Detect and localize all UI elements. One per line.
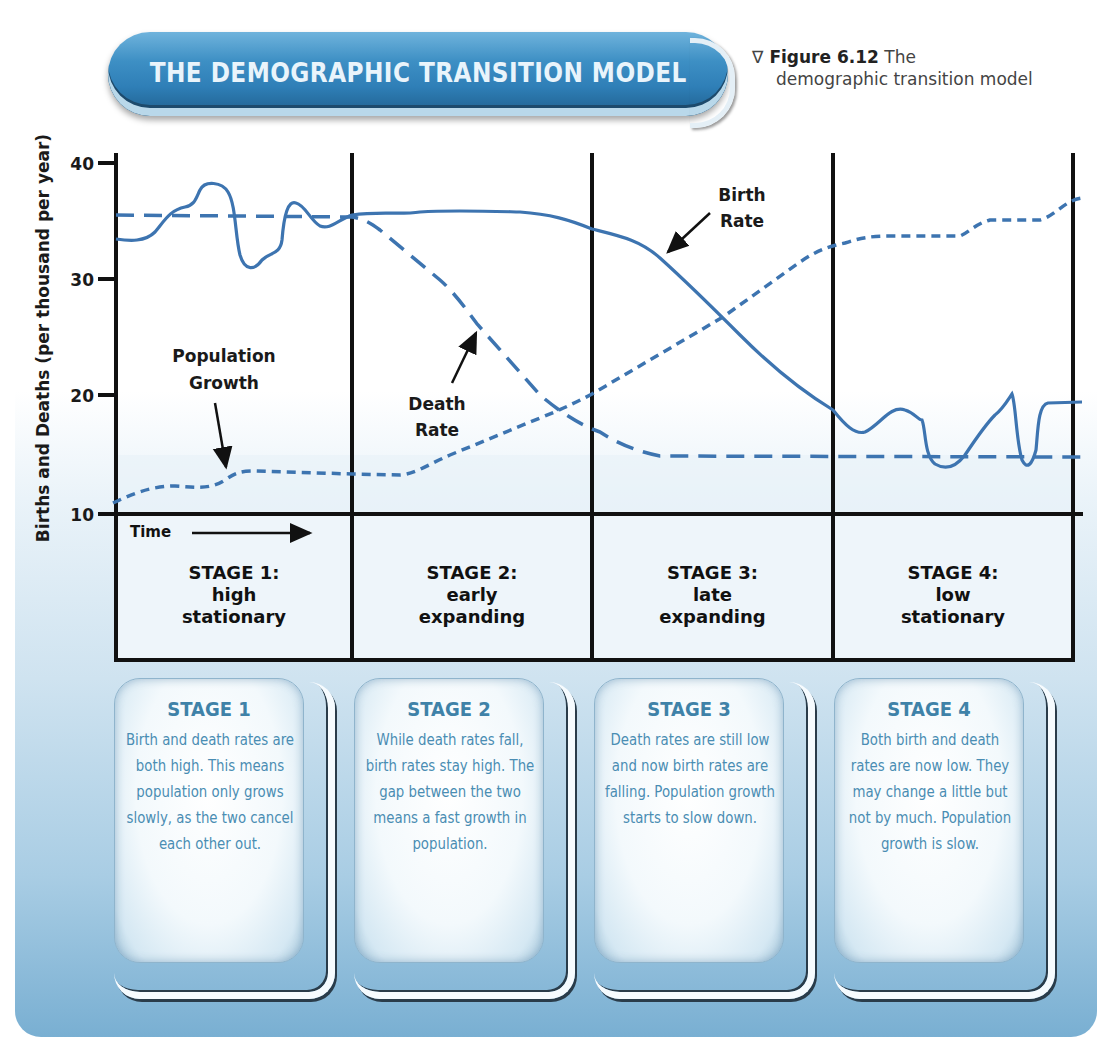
stage-1-desc: high xyxy=(116,584,352,606)
stage-2-card: STAGE 2 While death rates fall, birth ra… xyxy=(354,678,572,996)
card-title: STAGE 3 xyxy=(613,697,764,721)
death-rate-arrow xyxy=(452,333,476,383)
stage-2-label: STAGE 2: xyxy=(352,562,592,584)
stage-3-cell: STAGE 3: late expanding xyxy=(592,562,833,628)
stage-2-desc: early xyxy=(352,584,592,606)
stage-1-card: STAGE 1 Birth and death rates are both h… xyxy=(114,678,332,996)
death-rate-label-2: Rate xyxy=(415,420,459,440)
stage-3-desc: late xyxy=(592,584,833,606)
y-tick-20: 20 xyxy=(70,386,94,406)
birth-rate-label-1: Birth xyxy=(718,185,765,205)
card-face: STAGE 2 While death rates fall, birth ra… xyxy=(354,678,544,963)
stage-3-desc2: expanding xyxy=(592,606,833,628)
stage-1-cell: STAGE 1: high stationary xyxy=(116,562,352,628)
birth-rate-label-2: Rate xyxy=(720,211,764,231)
stage-3-label: STAGE 3: xyxy=(592,562,833,584)
population-growth-label-1: Population xyxy=(172,346,275,366)
stage-4-desc: low xyxy=(833,584,1073,606)
card-title: STAGE 4 xyxy=(853,697,1004,721)
population-growth-label-2: Growth xyxy=(189,373,259,393)
death-rate-line xyxy=(116,215,1082,457)
stage-4-cell: STAGE 4: low stationary xyxy=(833,562,1073,628)
stage-1-desc2: stationary xyxy=(116,606,352,628)
stage-2-desc2: expanding xyxy=(352,606,592,628)
stage-2-cell: STAGE 2: early expanding xyxy=(352,562,592,628)
card-title: STAGE 2 xyxy=(373,697,524,721)
y-ticks xyxy=(98,163,116,514)
card-body: While death rates fall, birth rates stay… xyxy=(364,727,536,857)
stage-4-label: STAGE 4: xyxy=(833,562,1073,584)
y-tick-30: 30 xyxy=(70,270,94,290)
card-title: STAGE 1 xyxy=(133,697,284,721)
stage-3-card: STAGE 3 Death rates are still low and no… xyxy=(594,678,812,996)
card-body: Death rates are still low and now birth … xyxy=(604,727,776,831)
birth-rate-line xyxy=(116,183,1082,467)
card-body: Both birth and death rates are now low. … xyxy=(844,727,1016,857)
stage-1-label: STAGE 1: xyxy=(116,562,352,584)
stage-4-desc2: stationary xyxy=(833,606,1073,628)
birth-rate-arrow xyxy=(668,213,710,252)
card-face: STAGE 4 Both birth and death rates are n… xyxy=(834,678,1024,963)
card-body: Birth and death rates are both high. Thi… xyxy=(124,727,296,857)
stage-4-card: STAGE 4 Both birth and death rates are n… xyxy=(834,678,1052,996)
time-axis-label: Time xyxy=(130,523,171,541)
card-face: STAGE 3 Death rates are still low and no… xyxy=(594,678,784,963)
card-face: STAGE 1 Birth and death rates are both h… xyxy=(114,678,304,963)
y-tick-40: 40 xyxy=(70,154,94,174)
y-tick-10: 10 xyxy=(70,505,94,525)
death-rate-label-1: Death xyxy=(408,394,465,414)
